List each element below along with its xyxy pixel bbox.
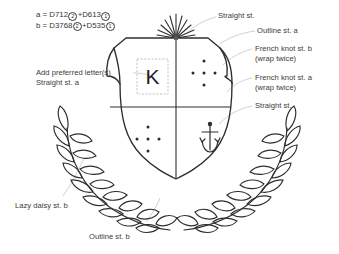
shield-body: [114, 38, 232, 179]
legend-a-eq: =: [43, 10, 48, 19]
legend-b-key: b: [36, 21, 40, 30]
annotation-french-knot-b: French knot st. b (wrap twice): [255, 44, 312, 63]
french-knot-dot: [203, 72, 206, 75]
annotation-lazy-daisy-b: Lazy daisy st. b: [15, 201, 68, 210]
french-knot-group-upper-right: [192, 60, 217, 87]
letter-placeholder-glyph: K: [137, 59, 168, 94]
legend-b-thread1: D3768: [49, 21, 72, 30]
legend-b-strands2: 1: [106, 22, 115, 31]
legend-a-thread1: D712: [49, 10, 68, 19]
annotation-french-knot-a-line1: French knot st. a: [255, 73, 312, 83]
french-knot-dot: [214, 72, 217, 75]
shield-outline: [107, 38, 232, 179]
annotation-french-knot-b-line2: (wrap twice): [255, 54, 312, 64]
legend-line-b: b = D37682+D5351: [36, 21, 115, 32]
annotation-outline-a: Outline st. a: [257, 26, 298, 35]
french-knot-dot: [147, 126, 150, 129]
thread-legend: a = D7122+D6131 b = D37682+D5351: [36, 10, 115, 31]
legend-a-key: a: [36, 10, 40, 19]
french-knot-dot: [192, 72, 195, 75]
annotation-add-letter-line1: Add preferred letter(s): [36, 68, 111, 78]
shield-quartering: [110, 34, 231, 178]
french-knot-group-lower-left: [136, 126, 161, 153]
laurel-wreath-right: [177, 106, 300, 233]
annotation-add-letter: Add preferred letter(s) Straight st. a: [36, 68, 111, 87]
legend-a-strands2: 1: [101, 12, 110, 21]
legend-b-eq: =: [43, 21, 48, 30]
embroidery-pattern-diagram: a = D7122+D6131 b = D37682+D5351 K Add p…: [0, 0, 339, 254]
legend-b-thread2: D535: [87, 21, 106, 30]
legend-line-a: a = D7122+D6131: [36, 10, 115, 21]
annotation-add-letter-line2: Straight st. a: [36, 78, 111, 88]
annotation-french-knot-a: French knot st. a (wrap twice): [255, 73, 312, 92]
french-knot-dot: [203, 60, 206, 63]
starburst-icon: [157, 14, 195, 40]
french-knot-dot: [158, 138, 161, 141]
leader-outline-a: [220, 31, 255, 44]
annotation-outline-b: Outline st. b: [89, 232, 130, 241]
annotation-french-knot-b-line1: French knot st. b: [255, 44, 312, 54]
annotation-straight-anchor: Straight st.: [255, 101, 292, 110]
pattern-artwork: [0, 0, 339, 254]
annotation-straight-top: Straight st.: [218, 11, 255, 20]
french-knot-dot: [136, 138, 139, 141]
legend-a-strands1: 2: [68, 12, 77, 21]
french-knot-dot: [147, 150, 150, 153]
french-knot-dot: [147, 138, 150, 141]
leader-straight-anchor: [219, 106, 252, 124]
legend-b-strands1: 2: [73, 22, 82, 31]
legend-a-thread2: D613: [82, 10, 101, 19]
french-knot-dot: [203, 84, 206, 87]
annotation-french-knot-a-line2: (wrap twice): [255, 83, 312, 93]
